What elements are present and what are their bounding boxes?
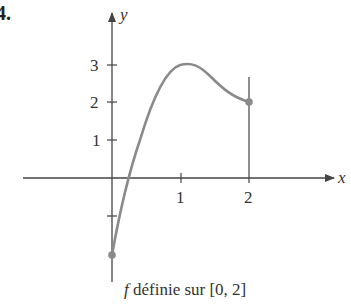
y-tick-label-1: 1: [92, 131, 101, 150]
endpoint-start: [108, 251, 116, 259]
y-tick-label-2: 2: [90, 93, 99, 112]
x-axis-label: x: [337, 168, 346, 187]
y-tick-label-3: 3: [90, 56, 99, 75]
x-tick-label-2: 2: [244, 188, 253, 207]
caption: f définie sur [0, 2]: [124, 280, 246, 299]
x-tick-label-1: 1: [176, 188, 185, 207]
caption-text: définie sur [0, 2]: [129, 280, 247, 299]
endpoint-end: [245, 98, 253, 106]
y-axis-label: y: [118, 5, 128, 24]
function-graph: 3 2 1 1 2 x y f définie sur [0, 2]: [0, 0, 351, 306]
function-curve: [112, 64, 249, 255]
